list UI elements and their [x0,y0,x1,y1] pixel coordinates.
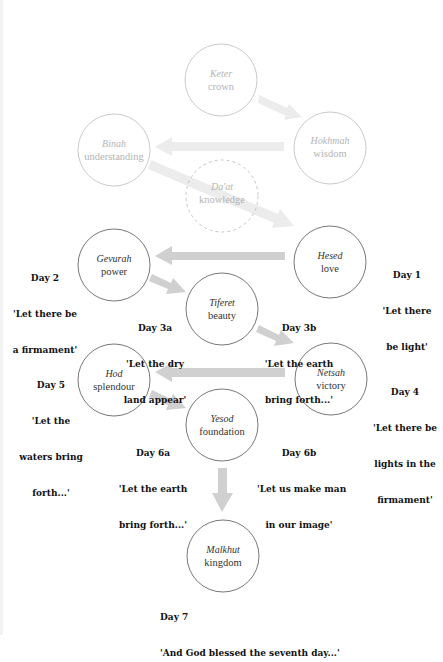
day-7-label: Day 7 'And God blessed the seventh day..… [160,587,360,662]
day-title: Day 6a [115,447,191,459]
node-name: Keter [176,67,266,80]
arrow-yesod-to-malkhut [212,468,233,512]
node-name: Malkhut [178,543,268,556]
day-title: Day 3a [120,322,190,334]
day-title: Day 1 [371,269,443,281]
day-quote-line: firmament' [367,494,443,506]
day-5-label: Day 5 'Let the waters bring forth...' [16,355,86,511]
node-gevurah: Gevurah power [69,252,159,278]
node-meaning: wisdom [285,147,375,160]
day-quote-line: 'Let there be [367,422,443,434]
day-3a-label: Day 3a 'Let the dry land appear' [120,298,190,418]
arrow-hokhmah-to-binah [155,137,284,156]
node-name: Hokhmah [285,134,375,147]
arrow-keter-to-hokhmah [258,95,302,120]
day-title: Day 4 [367,386,443,398]
node-name: Hesed [285,249,375,262]
day-1-label: Day 1 'Let there be light' [371,245,443,365]
node-meaning: understanding [69,150,159,163]
day-title: Day 6b [257,447,341,459]
day-title: Day 2 [10,272,80,284]
node-meaning: knowledge [177,193,267,206]
day-4-label: Day 4 'Let there be lights in the firmam… [367,362,443,518]
node-meaning: crown [176,80,266,93]
day-quote-line: 'Let there be [10,308,80,320]
day-title: Day 3b [261,322,337,334]
day-title: Day 7 [160,611,360,623]
node-meaning: kingdom [178,556,268,569]
day-quote-line: bring forth...' [115,519,191,531]
day-quote-line: waters bring [16,451,86,463]
node-malkhut: Malkhut kingdom [178,543,268,569]
node-meaning: love [285,262,375,275]
day-quote-line: 'And God blessed the seventh day...' [160,647,360,659]
node-meaning: beauty [177,309,267,322]
node-name: Da'at [177,180,267,193]
node-name: Gevurah [69,252,159,265]
node-name: Tiferet [177,296,267,309]
day-2-label: Day 2 'Let there be a firmament' [10,248,80,368]
day-6a-label: Day 6a 'Let the earth bring forth...' [115,423,191,543]
day-quote-line: 'Let the [16,415,86,427]
day-quote-line: 'Let the dry [120,358,190,370]
day-quote-line: 'Let us make man [257,483,341,495]
day-quote-line: forth...' [16,487,86,499]
node-hokhmah: Hokhmah wisdom [285,134,375,160]
day-quote-line: lights in the [367,458,443,470]
day-6b-label: Day 6b 'Let us make man in our image' [257,423,341,543]
node-name: Binah [69,137,159,150]
node-keter: Keter crown [176,67,266,93]
day-3b-label: Day 3b 'Let the earth bring forth...' [261,298,337,418]
day-quote-line: 'Let there [371,305,443,317]
day-quote-line: in our image' [257,519,341,531]
day-title: Day 5 [16,379,86,391]
node-meaning: power [69,265,159,278]
day-quote-line: 'Let the earth [261,358,337,370]
day-quote-line: land appear' [120,394,190,406]
day-quote-line: be light' [371,341,443,353]
node-hesed: Hesed love [285,249,375,275]
arrow-hesed-to-gevurah [155,246,285,265]
day-quote-line: bring forth...' [261,394,337,406]
node-tiferet: Tiferet beauty [177,296,267,322]
node-binah: Binah understanding [69,137,159,163]
day-quote-line: 'Let the earth [115,483,191,495]
node-daat: Da'at knowledge [177,180,267,206]
